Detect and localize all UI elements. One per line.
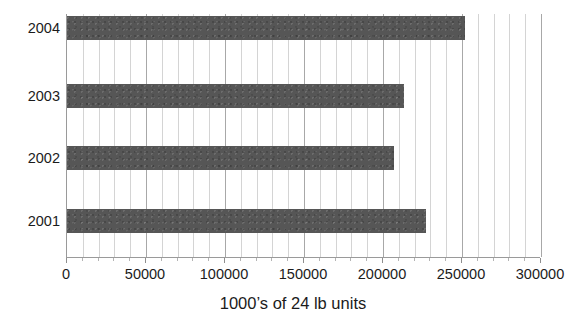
tick-minor [161, 258, 162, 261]
tick-major [382, 258, 383, 263]
x-tick-label-200000: 200000 [358, 266, 406, 283]
tick-minor [335, 258, 336, 261]
tick-minor [414, 258, 415, 261]
x-tick-label-150000: 150000 [279, 266, 327, 283]
tick-major [66, 258, 67, 263]
bar-chart: 2004200320022001 05000010000015000020000… [0, 0, 586, 329]
category-label-2003: 2003 [8, 88, 60, 104]
tick-minor [192, 258, 193, 261]
tick-minor [271, 258, 272, 261]
bars-layer [67, 14, 540, 257]
x-tick-label-0: 0 [62, 266, 70, 283]
tick-major [145, 258, 146, 263]
tick-minor [477, 258, 478, 261]
tick-minor [208, 258, 209, 261]
tick-minor [256, 258, 257, 261]
x-tick-label-250000: 250000 [437, 266, 485, 283]
tick-minor [366, 258, 367, 261]
tick-minor [398, 258, 399, 261]
tick-minor [350, 258, 351, 261]
bar-2004 [67, 16, 465, 40]
x-tick-label-100000: 100000 [200, 266, 248, 283]
tick-minor [319, 258, 320, 261]
tick-minor [493, 258, 494, 261]
tick-minor [113, 258, 114, 261]
tick-minor [429, 258, 430, 261]
tick-minor [508, 258, 509, 261]
category-label-2004: 2004 [8, 20, 60, 36]
tick-minor [98, 258, 99, 261]
tick-major [303, 258, 304, 263]
tick-minor [177, 258, 178, 261]
bar-2002 [67, 146, 394, 170]
tick-minor [524, 258, 525, 261]
tick-minor [445, 258, 446, 261]
tick-minor [129, 258, 130, 261]
x-tick-label-50000: 50000 [125, 266, 165, 283]
x-tick-label-300000: 300000 [516, 266, 564, 283]
tick-major [540, 258, 541, 263]
tick-minor [240, 258, 241, 261]
bar-2003 [67, 84, 404, 108]
x-axis-title: 1000’s of 24 lb units [0, 293, 586, 313]
gridline-major [541, 14, 542, 257]
plot-area [66, 14, 540, 258]
bar-2001 [67, 209, 426, 233]
tick-major [461, 258, 462, 263]
category-label-2001: 2001 [8, 213, 60, 229]
tick-major [224, 258, 225, 263]
category-label-2002: 2002 [8, 150, 60, 166]
tick-minor [82, 258, 83, 261]
tick-minor [287, 258, 288, 261]
